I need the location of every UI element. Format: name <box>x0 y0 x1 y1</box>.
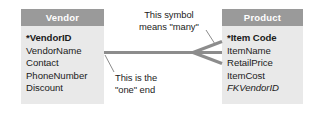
field-contact: Contact <box>26 57 104 70</box>
field-item-code: *Item Code <box>227 32 303 45</box>
annotation-one-line-2: "one" end <box>115 84 157 96</box>
field-vendorname: VendorName <box>26 45 104 58</box>
leader-line-one <box>105 55 114 72</box>
annotation-one-line-1: This is the <box>115 72 157 84</box>
annotation-one: This is the "one" end <box>115 72 157 95</box>
entity-product-field-list: *Item Code ItemName RetailPrice ItemCost… <box>222 26 303 99</box>
entity-vendor-title: Vendor <box>21 9 104 26</box>
annotation-many-line-1: This symbol <box>139 9 199 21</box>
crows-foot-upper-prong <box>193 42 222 53</box>
entity-product[interactable]: Product *Item Code ItemName RetailPrice … <box>222 9 303 104</box>
field-itemcost: ItemCost <box>227 70 303 83</box>
crows-foot-lower-prong <box>193 53 222 64</box>
field-vendorid: *VendorID <box>26 32 104 45</box>
field-fkvendorid: FKVendorID <box>227 82 303 95</box>
field-phonenumber: PhoneNumber <box>26 70 104 83</box>
field-discount: Discount <box>26 82 104 95</box>
field-retailprice: RetailPrice <box>227 57 303 70</box>
er-diagram-canvas: Vendor *VendorID VendorName Contact Phon… <box>0 0 317 116</box>
annotation-many: This symbol means "many" <box>139 9 199 32</box>
entity-vendor[interactable]: Vendor *VendorID VendorName Contact Phon… <box>21 9 104 104</box>
entity-vendor-field-list: *VendorID VendorName Contact PhoneNumber… <box>21 26 104 99</box>
annotation-many-line-2: means "many" <box>139 21 199 33</box>
leader-line-many <box>206 30 215 44</box>
entity-product-title: Product <box>222 9 303 26</box>
field-itemname: ItemName <box>227 45 303 58</box>
